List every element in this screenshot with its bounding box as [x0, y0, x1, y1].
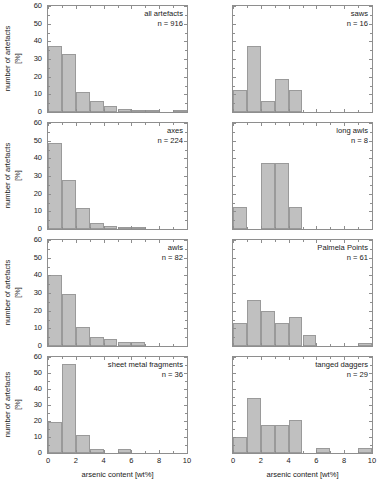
ytick-right: [185, 203, 187, 204]
xtick-bottom: [145, 227, 146, 229]
xtick-bottom: [344, 109, 345, 112]
bar: [289, 317, 303, 346]
ytick-right: [370, 445, 372, 446]
ytick-left: [233, 103, 235, 104]
bar: [303, 335, 317, 346]
xtick-bottom: [48, 109, 49, 112]
ytick-right: [185, 167, 187, 168]
ytick-left: [48, 211, 51, 212]
xtick-top: [303, 123, 304, 125]
xtick-bottom: [76, 343, 77, 346]
xtick-top: [330, 240, 331, 242]
xtick-label: 8: [336, 457, 352, 465]
ytick-right: [184, 405, 187, 406]
xtick-bottom: [145, 344, 146, 346]
xtick-bottom: [48, 226, 49, 229]
xtick-bottom: [289, 109, 290, 112]
bar: [76, 435, 90, 453]
xtick-bottom: [303, 451, 304, 453]
ytick-label: 30: [20, 289, 42, 297]
ytick-right: [184, 346, 187, 347]
ytick-right: [370, 103, 372, 104]
y-axis-title: number of artefacts: [3, 360, 12, 450]
ytick-left: [233, 337, 235, 338]
xtick-bottom: [48, 450, 49, 453]
xtick-bottom: [275, 451, 276, 453]
ytick-left: [233, 50, 235, 51]
ytick-right: [184, 112, 187, 113]
bar: [261, 163, 275, 229]
ytick-right: [369, 94, 372, 95]
panel-title: Palmela Points: [232, 243, 368, 253]
ytick-right: [369, 211, 372, 212]
xtick-bottom: [303, 344, 304, 346]
ytick-left: [48, 275, 51, 276]
ytick-left: [233, 328, 236, 329]
ytick-right: [185, 381, 187, 382]
xtick-label: 0: [225, 457, 241, 465]
ytick-left: [48, 328, 51, 329]
ytick-right: [370, 50, 372, 51]
bar: [261, 311, 275, 346]
xtick-bottom: [62, 110, 63, 112]
ytick-left: [233, 267, 235, 268]
ytick-right: [184, 24, 187, 25]
xtick-bottom: [358, 344, 359, 346]
xtick-top: [358, 123, 359, 125]
ytick-right: [185, 320, 187, 321]
ytick-right: [184, 258, 187, 259]
bar: [76, 208, 90, 229]
ytick-right: [369, 229, 372, 230]
xtick-bottom: [330, 227, 331, 229]
ytick-left: [233, 194, 236, 195]
y-axis-title: number of artefacts: [3, 131, 12, 221]
bar: [90, 337, 104, 346]
xtick-bottom: [118, 451, 119, 453]
xtick-bottom: [173, 227, 174, 229]
xtick-bottom: [173, 451, 174, 453]
ytick-right: [370, 185, 372, 186]
panel-sample-size: n = 82: [47, 253, 183, 263]
ytick-label: 50: [20, 20, 42, 28]
ytick-left: [233, 167, 235, 168]
ytick-left: [48, 445, 50, 446]
xtick-bottom: [247, 451, 248, 453]
xtick-top: [90, 6, 91, 8]
ytick-label: 10: [20, 207, 42, 215]
bar: [261, 425, 275, 453]
ytick-right: [370, 381, 372, 382]
xtick-bottom: [104, 343, 105, 346]
xtick-label: 10: [364, 457, 380, 465]
xtick-top: [62, 240, 63, 242]
y-axis-title: number of artefacts: [3, 14, 12, 104]
ytick-right: [370, 249, 372, 250]
ytick-left: [233, 68, 235, 69]
ytick-right: [184, 158, 187, 159]
ytick-right: [184, 328, 187, 329]
ytick-right: [370, 167, 372, 168]
xtick-bottom: [275, 344, 276, 346]
ytick-left: [48, 421, 51, 422]
xtick-bottom: [289, 450, 290, 453]
xtick-top: [303, 240, 304, 242]
ytick-left: [233, 176, 236, 177]
ytick-right: [370, 132, 372, 133]
bar: [275, 163, 289, 229]
ytick-left: [48, 220, 50, 221]
bar: [118, 342, 132, 346]
ytick-label: 10: [20, 433, 42, 441]
ytick-left: [233, 397, 235, 398]
panel-sample-size: n = 8: [232, 136, 368, 146]
xtick-bottom: [372, 343, 373, 346]
xtick-bottom: [118, 227, 119, 229]
ytick-left: [48, 158, 51, 159]
ytick-left: [48, 229, 51, 230]
ytick-left: [233, 429, 235, 430]
xtick-bottom: [330, 344, 331, 346]
panel-title: sheet metal fragments: [47, 360, 183, 370]
ytick-right: [185, 50, 187, 51]
ytick-right: [185, 413, 187, 414]
bar: [275, 79, 289, 112]
bar: [90, 101, 104, 112]
ytick-right: [370, 150, 372, 151]
